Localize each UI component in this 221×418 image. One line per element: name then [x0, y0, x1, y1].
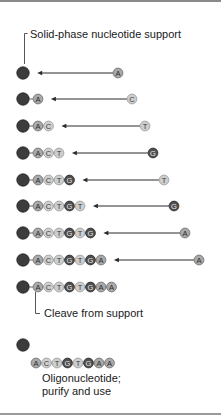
nucleotide-C: C — [44, 255, 54, 265]
support-bead-icon — [17, 174, 29, 186]
svg-text:A: A — [35, 122, 40, 131]
svg-text:C: C — [46, 176, 52, 185]
nucleotide-T: T — [54, 228, 64, 238]
nucleotide-G: G — [65, 282, 75, 292]
nucleotide-A: A — [33, 255, 43, 265]
svg-text:G: G — [67, 202, 73, 211]
nucleotide-A: A — [33, 121, 43, 131]
svg-text:T: T — [57, 283, 62, 292]
nucleotide-G: G — [86, 255, 96, 265]
nucleotide-G: G — [169, 201, 179, 211]
arrowhead-icon — [114, 258, 119, 262]
svg-text:T: T — [55, 359, 60, 368]
nucleotide-G: G — [65, 255, 75, 265]
nucleotide-A: A — [31, 358, 41, 368]
nucleotide-A: A — [105, 358, 115, 368]
svg-text:T: T — [78, 256, 83, 265]
support-bead-icon — [17, 227, 29, 239]
nucleotide-T: T — [159, 175, 169, 185]
svg-text:G: G — [171, 202, 177, 211]
svg-text:G: G — [67, 176, 73, 185]
support-bead-icon — [17, 67, 29, 79]
svg-text:G: G — [67, 256, 73, 265]
support-bead-icon — [17, 200, 29, 212]
support-bead-icon — [17, 147, 29, 159]
svg-text:A: A — [35, 256, 40, 265]
nucleotide-A: A — [33, 282, 43, 292]
svg-text:A: A — [115, 69, 120, 78]
svg-text:C: C — [46, 229, 52, 238]
svg-text:C: C — [46, 202, 52, 211]
svg-text:C: C — [46, 283, 52, 292]
svg-text:A: A — [35, 176, 40, 185]
arrowhead-icon — [51, 97, 56, 101]
arrowhead-icon — [103, 231, 108, 235]
svg-text:A: A — [35, 202, 40, 211]
nucleotide-T: T — [54, 148, 64, 158]
support-bead-icon — [17, 254, 29, 266]
nucleotide-A: A — [33, 148, 43, 158]
svg-text:A: A — [33, 359, 38, 368]
nucleotide-C: C — [44, 175, 54, 185]
nucleotide-G: G — [86, 228, 96, 238]
svg-text:A: A — [109, 283, 114, 292]
svg-text:C: C — [44, 359, 50, 368]
support-bracket — [25, 34, 28, 65]
arrowhead-icon — [37, 71, 42, 75]
svg-text:G: G — [88, 229, 94, 238]
svg-text:A: A — [35, 283, 40, 292]
svg-text:A: A — [182, 229, 187, 238]
nucleotide-C: C — [44, 121, 54, 131]
support-bead-icon — [17, 120, 29, 132]
support-label: Solid-phase nucleotide support — [30, 28, 181, 40]
nucleotide-A: A — [180, 228, 190, 238]
svg-text:A: A — [35, 149, 40, 158]
nucleotide-C: C — [42, 358, 52, 368]
svg-text:T: T — [76, 359, 81, 368]
nucleotide-T: T — [52, 358, 62, 368]
arrowhead-icon — [72, 151, 77, 155]
nucleotide-A: A — [113, 68, 123, 78]
oligo-label-line2: purify and use — [42, 385, 111, 397]
nucleotide-G: G — [84, 358, 94, 368]
nucleotide-A: A — [107, 282, 117, 292]
svg-text:T: T — [162, 176, 167, 185]
arrowhead-icon — [82, 178, 87, 182]
nucleotide-A: A — [94, 358, 104, 368]
nucleotide-G: G — [65, 201, 75, 211]
nucleotide-T: T — [75, 282, 85, 292]
nucleotide-A: A — [33, 201, 43, 211]
nucleotide-C: C — [44, 148, 54, 158]
nucleotide-T: T — [54, 255, 64, 265]
cleave-label: Cleave from support — [44, 307, 143, 319]
arrowhead-icon — [61, 124, 66, 128]
svg-text:T: T — [57, 176, 62, 185]
nucleotide-T: T — [75, 228, 85, 238]
nucleotide-T: T — [54, 282, 64, 292]
svg-text:A: A — [96, 359, 101, 368]
svg-text:C: C — [129, 95, 135, 104]
svg-text:C: C — [46, 256, 52, 265]
nucleotide-A: A — [33, 228, 43, 238]
support-bead-icon — [17, 281, 29, 293]
svg-text:G: G — [88, 256, 94, 265]
svg-text:A: A — [35, 229, 40, 238]
nucleotide-A: A — [33, 94, 43, 104]
nucleotide-C: C — [127, 94, 137, 104]
nucleotide-C: C — [44, 201, 54, 211]
nucleotide-A: A — [96, 255, 106, 265]
svg-text:T: T — [143, 122, 148, 131]
svg-text:C: C — [46, 122, 52, 131]
nucleotide-G: G — [63, 358, 73, 368]
nucleotide-G: G — [148, 148, 158, 158]
svg-text:T: T — [57, 256, 62, 265]
nucleotide-T: T — [75, 255, 85, 265]
svg-text:T: T — [78, 202, 83, 211]
svg-text:G: G — [67, 229, 73, 238]
svg-text:G: G — [150, 149, 156, 158]
nucleotide-A: A — [33, 175, 43, 185]
nucleotide-T: T — [54, 201, 64, 211]
svg-text:C: C — [46, 149, 52, 158]
svg-text:A: A — [107, 359, 112, 368]
svg-text:G: G — [86, 359, 92, 368]
